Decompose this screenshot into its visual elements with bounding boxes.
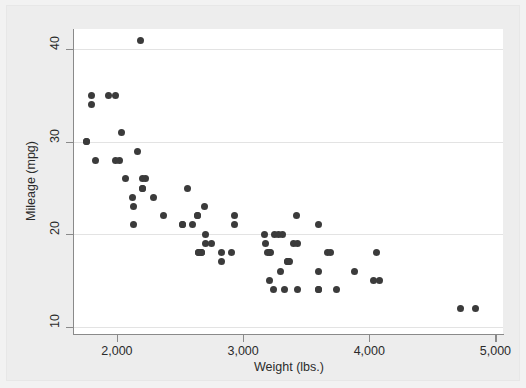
- scatter-point: [122, 175, 129, 182]
- graph-canvas: Mileage (mpg) Weight (lbs.) 10203040 2,0…: [6, 5, 520, 381]
- scatter-point: [370, 277, 377, 284]
- scatter-point: [293, 212, 300, 219]
- y-tick-label-10: 10: [46, 314, 64, 330]
- scatter-point: [266, 277, 273, 284]
- scatter-point: [208, 240, 215, 247]
- y-tick-mark-10: [66, 327, 74, 328]
- scatter-point: [92, 157, 99, 164]
- scatter-point: [270, 286, 277, 293]
- y-tick-mark-20: [66, 234, 74, 235]
- scatter-point: [139, 175, 146, 182]
- x-axis-line: [73, 334, 504, 335]
- scatter-point: [160, 212, 167, 219]
- y-tick-label-40: 40: [46, 36, 64, 52]
- plot-area: [74, 29, 503, 334]
- y-tick-mark-30: [66, 142, 74, 143]
- gridline-y-40: [74, 49, 503, 50]
- scatter-point: [112, 92, 119, 99]
- x-tick-mark-2000: [117, 335, 118, 342]
- scatter-point: [201, 203, 208, 210]
- scatter-point: [231, 221, 238, 228]
- x-tick-label-3000: 3,000: [227, 344, 258, 358]
- x-tick-label-2000: 2,000: [101, 344, 132, 358]
- scatter-point: [315, 221, 322, 228]
- scatter-point: [231, 212, 238, 219]
- x-tick-mark-3000: [243, 335, 244, 342]
- scatter-point: [472, 305, 479, 312]
- y-tick-label-30: 30: [46, 129, 64, 145]
- x-tick-label-5000: 5,000: [480, 344, 511, 358]
- scatter-point: [286, 258, 293, 265]
- gridline-y-30: [74, 142, 503, 143]
- scatter-point: [315, 268, 322, 275]
- scatter-point: [457, 305, 464, 312]
- scatter-point: [88, 92, 95, 99]
- y-tick-label-text: 40: [49, 36, 62, 50]
- scatter-point: [218, 249, 225, 256]
- gridline-y-20: [74, 234, 503, 235]
- gridline-y-10: [74, 327, 503, 328]
- scatter-point: [327, 249, 334, 256]
- scatter-point: [202, 231, 209, 238]
- scatter-point: [218, 258, 225, 265]
- scatter-point: [279, 231, 286, 238]
- scatter-point: [261, 231, 268, 238]
- scatter-point: [194, 212, 201, 219]
- x-tick-label-4000: 4,000: [354, 344, 385, 358]
- scatter-point: [277, 268, 284, 275]
- scatter-point: [315, 286, 322, 293]
- scatter-point: [179, 221, 186, 228]
- scatter-point: [118, 129, 125, 136]
- y-axis-line: [73, 29, 74, 335]
- scatter-point: [129, 194, 136, 201]
- scatter-point: [105, 92, 112, 99]
- scatter-point: [228, 249, 235, 256]
- scatter-point: [262, 240, 269, 247]
- y-tick-label-text: 20: [49, 221, 62, 235]
- scatter-point: [281, 286, 288, 293]
- scatter-point: [130, 221, 137, 228]
- y-axis-title: Mileage (mpg): [24, 141, 38, 221]
- scatter-point: [376, 277, 383, 284]
- y-tick-label-text: 30: [49, 129, 62, 143]
- scatter-point: [139, 185, 146, 192]
- scatter-point: [184, 185, 191, 192]
- y-tick-label-text: 10: [49, 314, 62, 328]
- scatter-point: [333, 286, 340, 293]
- y-tick-label-20: 20: [46, 221, 64, 237]
- x-axis-title: Weight (lbs.): [254, 360, 324, 374]
- scatter-point: [294, 286, 301, 293]
- scatter-point: [83, 138, 90, 145]
- graph-window: Mileage (mpg) Weight (lbs.) 10203040 2,0…: [0, 0, 526, 388]
- scatter-point: [150, 194, 157, 201]
- y-tick-mark-40: [66, 49, 74, 50]
- scatter-point: [134, 148, 141, 155]
- x-tick-mark-4000: [369, 335, 370, 342]
- scatter-point: [373, 249, 380, 256]
- x-tick-mark-5000: [495, 335, 496, 342]
- scatter-point: [294, 240, 301, 247]
- scatter-point: [112, 157, 119, 164]
- scatter-point: [88, 101, 95, 108]
- scatter-point: [189, 221, 196, 228]
- scatter-point: [137, 37, 144, 44]
- scatter-point: [130, 203, 137, 210]
- scatter-point: [351, 268, 358, 275]
